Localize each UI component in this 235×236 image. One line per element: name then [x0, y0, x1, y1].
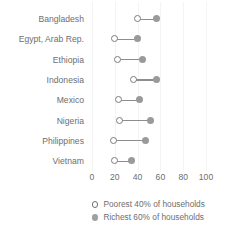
chart-row: Vietnam — [0, 151, 235, 171]
marker-poorest — [111, 157, 118, 164]
row-plot — [0, 9, 235, 29]
marker-richest — [139, 56, 146, 63]
marker-poorest — [110, 137, 117, 144]
marker-poorest — [114, 56, 121, 63]
marker-richest — [153, 15, 160, 22]
legend-label-poorest: Poorest 40% of households — [103, 199, 204, 210]
x-axis: 020406080100 — [0, 170, 235, 186]
dumbbell-chart: BangladeshEgypt, Arab Rep.EthiopiaIndone… — [0, 0, 235, 236]
chart-legend: Poorest 40% of households Richest 60% of… — [92, 198, 235, 224]
marker-poorest — [130, 76, 137, 83]
x-tick-label: 20 — [110, 172, 120, 182]
marker-richest — [134, 35, 141, 42]
chart-row: Indonesia — [0, 70, 235, 90]
connector-line — [114, 140, 146, 141]
row-plot — [0, 70, 235, 90]
chart-row: Philippines — [0, 131, 235, 151]
row-plot — [0, 131, 235, 151]
x-tick-label: 60 — [156, 172, 166, 182]
marker-richest — [142, 137, 149, 144]
legend-label-richest: Richest 60% of households — [103, 212, 204, 223]
marker-richest — [136, 96, 143, 103]
marker-richest — [147, 117, 154, 124]
row-plot — [0, 50, 235, 70]
marker-richest — [153, 76, 160, 83]
marker-poorest — [134, 15, 141, 22]
legend-item-richest: Richest 60% of households — [92, 211, 235, 224]
chart-row: Bangladesh — [0, 9, 235, 29]
x-tick-label: 40 — [133, 172, 143, 182]
row-plot — [0, 29, 235, 49]
connector-line — [119, 120, 150, 121]
open-circle-icon — [92, 201, 98, 207]
chart-row: Ethiopia — [0, 50, 235, 70]
marker-poorest — [111, 35, 118, 42]
chart-row: Nigeria — [0, 111, 235, 131]
legend-item-poorest: Poorest 40% of households — [92, 198, 235, 211]
filled-circle-icon — [92, 214, 98, 220]
row-plot — [0, 90, 235, 110]
row-plot — [0, 111, 235, 131]
plot-rows: BangladeshEgypt, Arab Rep.EthiopiaIndone… — [0, 0, 235, 172]
chart-row: Mexico — [0, 90, 235, 110]
row-plot — [0, 151, 235, 171]
marker-richest — [128, 157, 135, 164]
x-tick-label: 0 — [90, 172, 95, 182]
x-tick-label: 80 — [178, 172, 188, 182]
chart-row: Egypt, Arab Rep. — [0, 29, 235, 49]
x-tick-label: 100 — [199, 172, 213, 182]
marker-poorest — [115, 96, 122, 103]
marker-poorest — [116, 117, 123, 124]
